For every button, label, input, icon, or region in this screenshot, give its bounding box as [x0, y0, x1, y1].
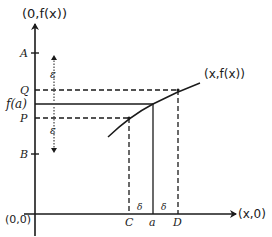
tick-label-P: P: [19, 112, 28, 125]
tick-label-a: a: [149, 216, 156, 229]
origin-label: (0,0): [5, 213, 31, 226]
tick-label-fa: f(a): [5, 97, 27, 111]
y-axis-label: (0,f(x)): [22, 6, 67, 21]
delta-right-label: δ: [161, 202, 166, 212]
epsilon-delta-diagram: (0,f(x)) A Q f(a) P B ε ε C a D δ δ (0,0…: [0, 0, 272, 237]
tick-label-B: B: [19, 148, 28, 161]
point-C-on-curve: [127, 116, 130, 119]
tick-label-D: D: [172, 216, 182, 229]
tick-label-C: C: [125, 216, 134, 229]
point-D-on-curve: [176, 88, 179, 91]
curve-label: (x,f(x)): [204, 67, 245, 81]
tick-label-Q: Q: [20, 84, 29, 97]
x-axis-label: (x,0): [238, 207, 266, 221]
epsilon-upper-label: ε: [50, 68, 56, 81]
tick-label-A: A: [19, 47, 28, 60]
delta-left-label: δ: [137, 202, 142, 212]
function-curve: [108, 83, 200, 137]
epsilon-lower-label: ε: [50, 124, 56, 137]
